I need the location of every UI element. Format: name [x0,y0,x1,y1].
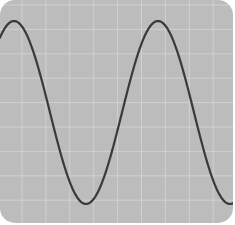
sine-wave-chart [0,0,233,223]
sine-curve [0,21,233,204]
chart-panel [0,0,233,223]
grid-lines [0,0,233,223]
